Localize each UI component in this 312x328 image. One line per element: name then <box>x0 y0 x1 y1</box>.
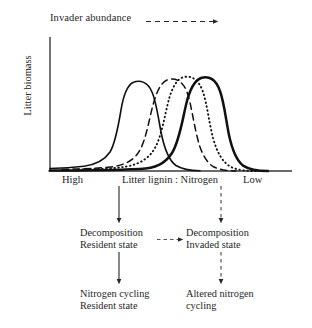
diagram-canvas <box>0 0 312 328</box>
node-line-1: Nitrogen cycling <box>80 288 149 300</box>
x-axis-label: Litter lignin : Nitrogen <box>122 174 218 185</box>
node-nitrogen-cycling-resident: Nitrogen cycling Resident state <box>80 288 149 311</box>
node-altered-nitrogen-cycling: Altered nitrogen cycling <box>186 288 254 311</box>
node-line-2: Resident state <box>80 239 143 251</box>
node-decomposition-invaded: Decomposition Invaded state <box>186 227 249 250</box>
invader-abundance-label: Invader abundance <box>50 12 131 23</box>
x-tick-label-high: High <box>62 174 83 185</box>
node-line-1: Decomposition <box>80 227 143 239</box>
curve-invaded-solid-2 <box>50 77 268 171</box>
plot-axes <box>49 37 293 171</box>
y-axis-label: Litter biomass <box>22 46 33 126</box>
node-line-2: Resident state <box>80 300 149 312</box>
node-line-1: Altered nitrogen <box>186 288 254 300</box>
node-line-2: cycling <box>186 300 254 312</box>
x-tick-label-low: Low <box>243 174 262 185</box>
node-decomposition-resident: Decomposition Resident state <box>80 227 143 250</box>
curve-resident-solid-1 <box>50 81 200 170</box>
node-line-2: Invaded state <box>186 239 249 251</box>
figure-root: Invader abundance <box>0 0 312 328</box>
curve-transition-dashed <box>62 79 236 171</box>
node-line-1: Decomposition <box>186 227 249 239</box>
curve-group <box>50 77 268 171</box>
curve-transition-dotted <box>78 77 256 171</box>
